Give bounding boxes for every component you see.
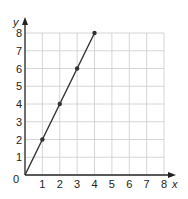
x-tick-label: 8 — [161, 178, 167, 190]
x-tick-label: 3 — [74, 178, 80, 190]
axes — [22, 17, 176, 178]
data-point — [40, 137, 44, 141]
y-tick-label: 5 — [16, 80, 22, 92]
data-series — [25, 31, 97, 175]
y-tick-label: 3 — [16, 116, 22, 128]
x-tick-label: 6 — [126, 178, 132, 190]
x-tick-label: 4 — [91, 178, 97, 190]
data-point — [92, 31, 96, 35]
y-axis-arrow-icon — [22, 17, 28, 25]
grid — [25, 33, 164, 175]
x-tick-label: 2 — [57, 178, 63, 190]
x-tick-label: 5 — [109, 178, 115, 190]
x-tick-label: 1 — [39, 178, 45, 190]
line-chart: 1234567812345678 x y 0 — [0, 0, 188, 199]
y-tick-label: 1 — [16, 151, 22, 163]
x-tick-label: 7 — [144, 178, 150, 190]
y-tick-label: 2 — [16, 134, 22, 146]
tick-labels: 1234567812345678 — [16, 27, 167, 190]
y-tick-label: 8 — [16, 27, 22, 39]
data-point — [58, 102, 62, 106]
y-tick-label: 4 — [16, 98, 22, 110]
y-tick-label: 7 — [16, 45, 22, 57]
x-axis-label: x — [171, 178, 178, 190]
data-point — [75, 66, 79, 70]
y-tick-label: 6 — [16, 63, 22, 75]
origin-label: 0 — [13, 173, 19, 185]
